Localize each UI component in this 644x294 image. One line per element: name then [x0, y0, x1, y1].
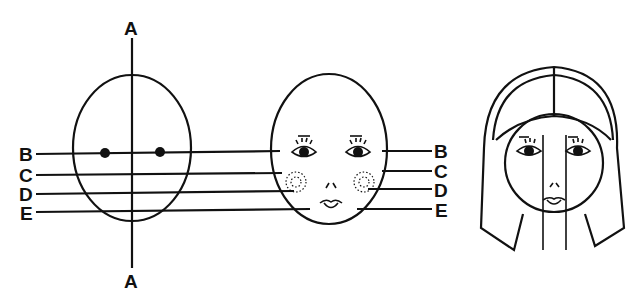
face-proportion-diagram: A A B C D E	[0, 0, 644, 294]
label-b-left: B	[19, 144, 33, 165]
hair-face-mouth	[543, 198, 565, 204]
eye-right	[346, 136, 370, 157]
face-guide-panel: B C D E	[271, 74, 448, 224]
label-c-left: C	[19, 165, 33, 186]
face-circle	[505, 114, 603, 212]
guide-line-e	[36, 209, 310, 212]
cheek-left	[286, 172, 306, 192]
guide-line-d	[36, 191, 294, 194]
hair-left-side	[481, 148, 523, 250]
hair-face-eye-left	[517, 137, 541, 156]
hair-face-eye-right	[566, 137, 590, 156]
label-d-right: D	[434, 180, 448, 201]
label-e-left: E	[20, 203, 33, 224]
oval-guide-panel: A A B C D E	[19, 18, 310, 292]
label-b-right: B	[434, 141, 448, 162]
face-with-hair-panel	[481, 67, 624, 250]
label-a-top: A	[124, 18, 138, 39]
nose	[326, 183, 336, 188]
label-c-right: C	[434, 161, 448, 182]
hair-outer	[484, 67, 617, 148]
hair-right-side	[585, 148, 624, 246]
label-a-bottom: A	[124, 271, 138, 292]
label-e-right: E	[435, 200, 448, 221]
label-d-left: D	[19, 184, 33, 205]
guide-line-c	[36, 173, 282, 175]
mouth	[320, 200, 342, 207]
hair-face-nose	[550, 183, 559, 187]
eye-left	[292, 136, 316, 157]
